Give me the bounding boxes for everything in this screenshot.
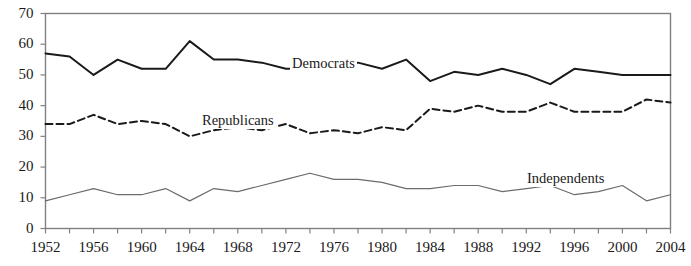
series-label-democrats: Democrats: [290, 55, 357, 72]
y-tick-label-40: 40: [8, 98, 34, 113]
series-line-republicans: [46, 100, 671, 137]
x-tick-label-1968: 1968: [216, 239, 260, 255]
series-label-independents: Independents: [525, 170, 606, 187]
party-identification-line-chart: 010203040506070 195219561960196419681972…: [0, 0, 691, 266]
x-tick-label-2000: 2000: [600, 239, 644, 255]
x-tick-label-1996: 1996: [552, 239, 596, 255]
y-tick-label-60: 60: [8, 36, 34, 51]
x-tick-label-1972: 1972: [264, 239, 308, 255]
plot-frame: [46, 14, 671, 229]
x-tick-label-1984: 1984: [408, 239, 452, 255]
y-tick-label-10: 10: [8, 190, 34, 205]
series-line-democrats: [46, 41, 671, 84]
x-tick-label-1980: 1980: [360, 239, 404, 255]
y-tick-label-20: 20: [8, 159, 34, 174]
y-tick-label-50: 50: [8, 67, 34, 82]
series-label-republicans: Republicans: [200, 112, 276, 129]
y-tick-label-30: 30: [8, 128, 34, 143]
axis-ticks: [41, 14, 671, 234]
x-tick-label-1988: 1988: [456, 239, 500, 255]
y-tick-label-0: 0: [8, 221, 34, 236]
x-tick-label-1976: 1976: [312, 239, 356, 255]
x-tick-label-1964: 1964: [168, 239, 212, 255]
x-tick-label-1960: 1960: [120, 239, 164, 255]
y-tick-label-70: 70: [8, 6, 34, 21]
x-tick-label-1956: 1956: [72, 239, 116, 255]
chart-canvas: [0, 0, 691, 266]
x-tick-label-2004: 2004: [649, 239, 691, 255]
x-tick-label-1952: 1952: [24, 239, 68, 255]
x-tick-label-1992: 1992: [504, 239, 548, 255]
